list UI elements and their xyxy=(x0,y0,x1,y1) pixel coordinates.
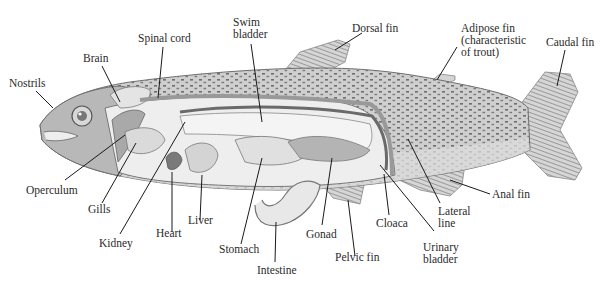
label-gills: Gills xyxy=(88,203,110,215)
label-liver: Liver xyxy=(188,214,213,226)
label-heart: Heart xyxy=(156,227,182,239)
label-adipose-fin: Adipose fin (characteristic of trout) xyxy=(461,22,526,58)
trout-anatomy-diagram: Nostrils Brain Spinal cord Swim bladder … xyxy=(0,0,603,282)
label-cloaca: Cloaca xyxy=(376,217,408,229)
label-spinal-cord: Spinal cord xyxy=(138,32,191,44)
label-operculum: Operculum xyxy=(26,184,78,196)
dorsal-fin-shape xyxy=(285,40,350,70)
label-intestine: Intestine xyxy=(257,264,297,276)
label-lateral-line: Lateral line xyxy=(438,205,471,229)
label-swim-bladder: Swim bladder xyxy=(233,16,267,40)
label-caudal-fin: Caudal fin xyxy=(546,36,594,48)
label-brain: Brain xyxy=(83,52,109,64)
label-dorsal-fin: Dorsal fin xyxy=(352,22,398,34)
label-anal-fin: Anal fin xyxy=(492,188,530,200)
label-gonad: Gonad xyxy=(306,228,337,240)
label-stomach: Stomach xyxy=(219,243,259,255)
label-nostrils: Nostrils xyxy=(9,77,45,89)
label-urinary-bladder: Urinary bladder xyxy=(423,241,459,265)
label-kidney: Kidney xyxy=(99,237,133,249)
label-pelvic-fin: Pelvic fin xyxy=(335,251,379,263)
